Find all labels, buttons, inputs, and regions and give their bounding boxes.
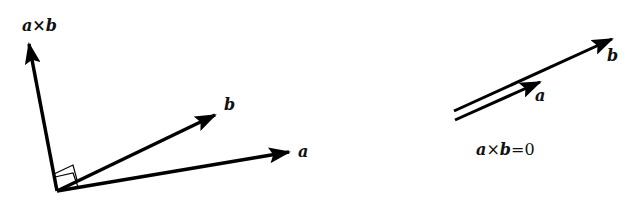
label-b-right: b: [607, 48, 618, 64]
eq-a: a: [476, 140, 486, 159]
label-a-right: a: [535, 88, 545, 104]
label-a: a: [298, 144, 308, 160]
vector-b-parallel: [454, 39, 612, 111]
vector-a-cross-b: [29, 44, 57, 191]
right-figure: [454, 39, 612, 120]
vector-diagram: [0, 0, 636, 214]
right-angle-mark-b: [54, 165, 77, 180]
eq-rhs: =0: [511, 140, 535, 159]
left-figure: [29, 44, 289, 191]
vector-a-parallel: [455, 82, 540, 120]
equation-cross-zero: a×b=0: [476, 142, 535, 158]
eq-b: b: [500, 140, 511, 159]
vector-b: [57, 115, 215, 191]
label-b: b: [224, 97, 235, 113]
eq-times: ×: [486, 140, 499, 159]
label-a-cross-b: a×b: [22, 18, 57, 34]
vector-a: [57, 152, 289, 191]
